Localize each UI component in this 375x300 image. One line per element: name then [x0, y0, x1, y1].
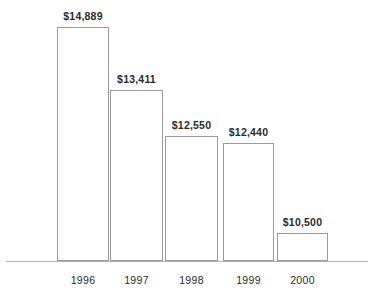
bar-2000: [277, 233, 328, 261]
bar-value-label-1996: $14,889: [43, 10, 123, 22]
bar-1997: [110, 90, 163, 261]
x-tick-label-1997: 1997: [107, 274, 167, 286]
bar-1996: [57, 27, 109, 261]
x-tick-label-2000: 2000: [273, 274, 333, 286]
bar-value-label-2000: $10,500: [263, 216, 343, 228]
bar-1998: [165, 136, 218, 261]
bar-chart: $14,8891996$13,4111997$12,5501998$12,440…: [0, 0, 375, 300]
x-tick-label-1998: 1998: [162, 274, 222, 286]
bar-value-label-1999: $12,440: [209, 126, 289, 138]
x-tick-label-1996: 1996: [53, 274, 113, 286]
x-axis-line: [6, 261, 368, 262]
x-tick-label-1999: 1999: [219, 274, 279, 286]
bar-1999: [223, 143, 274, 261]
bar-value-label-1997: $13,411: [97, 73, 177, 85]
plot-area: $14,8891996$13,4111997$12,5501998$12,440…: [0, 0, 375, 300]
